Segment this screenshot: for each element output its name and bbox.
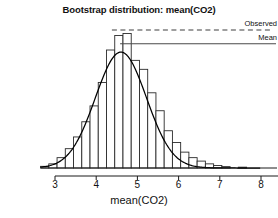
observed-line-label: Observed (244, 19, 277, 28)
x-axis-tick-label: 6 (169, 179, 189, 190)
x-axis-label: mean(CO2) (0, 194, 278, 206)
histogram-bar (65, 149, 73, 168)
x-axis-tick-label: 4 (86, 179, 106, 190)
chart-title: Bootstrap distribution: mean(CO2) (0, 4, 278, 15)
histogram-bar (98, 82, 106, 168)
histogram-bar (172, 142, 180, 168)
histogram-bar (90, 106, 98, 168)
x-axis-tick-label: 3 (45, 179, 65, 190)
histogram-bar (115, 36, 123, 168)
bootstrap-distribution-figure: Bootstrap distribution: mean(CO2) Observ… (0, 0, 278, 218)
x-axis-tick-label: 7 (210, 179, 230, 190)
x-axis-tick-label: 8 (251, 179, 271, 190)
histogram-bar (181, 152, 189, 168)
histogram-bar (139, 69, 147, 168)
histogram-bars (41, 33, 247, 168)
histogram-bar (164, 131, 172, 168)
x-axis-tick-label: 5 (127, 179, 147, 190)
mean-line-label: Mean (258, 33, 277, 42)
